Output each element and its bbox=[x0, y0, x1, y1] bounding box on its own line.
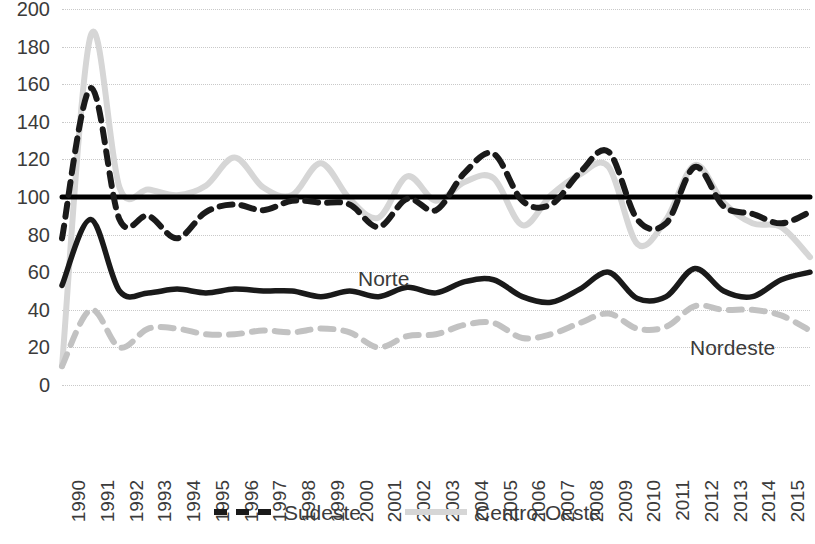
y-axis-tick: 120 bbox=[17, 149, 50, 169]
legend-swatch-centro-oeste bbox=[405, 509, 467, 515]
legend-label-sudeste: Sudeste bbox=[284, 502, 361, 523]
gridline bbox=[62, 385, 810, 386]
series-label-norte: Norte bbox=[358, 268, 409, 289]
y-axis-tick: 200 bbox=[17, 0, 50, 19]
y-axis: 020406080100120140160180200 bbox=[0, 0, 56, 394]
chart-legend: Sudeste Centro-Oeste bbox=[0, 492, 815, 532]
legend-swatch-sudeste bbox=[214, 509, 276, 515]
line-chart: 020406080100120140160180200 199019911992… bbox=[0, 0, 815, 544]
y-axis-tick: 20 bbox=[28, 337, 50, 357]
y-axis-tick: 0 bbox=[39, 375, 50, 395]
y-axis-tick: 60 bbox=[28, 262, 50, 282]
y-axis-tick: 140 bbox=[17, 112, 50, 132]
legend-label-centro-oeste: Centro-Oeste bbox=[475, 502, 601, 523]
y-axis-tick: 80 bbox=[28, 225, 50, 245]
y-axis-tick: 180 bbox=[17, 37, 50, 57]
series-line-norte bbox=[62, 220, 810, 303]
legend-item-centro-oeste: Centro-Oeste bbox=[405, 502, 601, 523]
series-label-nordeste: Nordeste bbox=[690, 337, 775, 358]
y-axis-tick: 100 bbox=[17, 187, 50, 207]
legend-item-sudeste: Sudeste bbox=[214, 502, 361, 523]
series-layer bbox=[62, 9, 810, 385]
plot-area bbox=[62, 9, 810, 385]
y-axis-tick: 40 bbox=[28, 300, 50, 320]
y-axis-tick: 160 bbox=[17, 74, 50, 94]
x-axis: 1990199119921993199419951996199719981999… bbox=[62, 392, 810, 488]
